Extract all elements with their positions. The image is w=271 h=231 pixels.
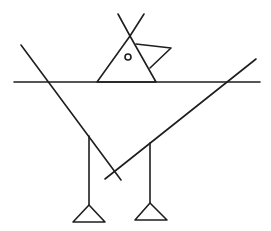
body-right-diagonal: [105, 59, 256, 179]
left-foot-triangle: [73, 205, 105, 222]
eye-icon: [125, 54, 131, 60]
crest-left-line: [118, 14, 130, 36]
crest-right-line: [130, 14, 144, 36]
bird-line-drawing: [0, 0, 271, 231]
right-foot-triangle: [135, 203, 167, 220]
body-left-diagonal: [21, 45, 121, 180]
